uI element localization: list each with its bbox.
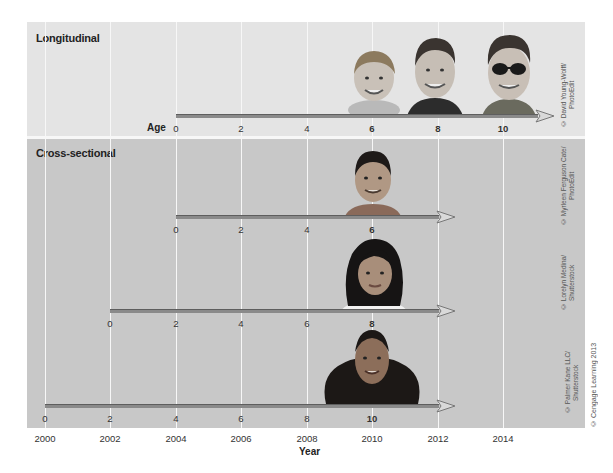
photo-girl-age-8: [338, 236, 410, 312]
photo-credit: © David Young-Wolff/ PhotoEdit: [560, 60, 576, 130]
age-tick: 6: [369, 123, 374, 134]
cross-row1-arrow: [176, 215, 439, 219]
age-tick: 10: [367, 413, 378, 424]
panel-divider: [27, 136, 585, 139]
year-tick: 2006: [230, 433, 251, 444]
photo-boy-age-10: [478, 33, 540, 116]
year-tick: 2002: [99, 433, 120, 444]
age-tick: 10: [498, 123, 509, 134]
age-tick: 4: [173, 413, 178, 424]
photo-girl-age-10: [320, 328, 424, 406]
age-tick: 0: [173, 224, 178, 235]
year-axis-title: Year: [299, 446, 320, 457]
photo-credit: © Myrleen Ferguson Cate/ PhotoEdit: [560, 145, 576, 227]
photo-boy-age-6: [345, 48, 403, 116]
year-tick: 2004: [165, 433, 186, 444]
arrowhead-icon: [436, 399, 456, 413]
photo-boy-age-8: [405, 36, 465, 116]
age-tick: 2: [107, 413, 112, 424]
age-tick: 2: [238, 123, 243, 134]
age-tick: 0: [107, 318, 112, 329]
age-axis-label: Age: [147, 122, 166, 133]
gridline-2002: [110, 22, 111, 428]
age-tick: 2: [238, 224, 243, 235]
age-tick: 4: [304, 123, 309, 134]
longitudinal-age-arrow: [176, 114, 538, 118]
age-tick: 6: [304, 318, 309, 329]
age-tick: 6: [238, 413, 243, 424]
arrowhead-icon: [436, 304, 456, 318]
age-tick: 8: [304, 413, 309, 424]
copyright: © Cengage Learning 2013: [590, 340, 598, 430]
cross-sectional-title: Cross-sectional: [36, 147, 116, 159]
year-tick: 2010: [361, 433, 382, 444]
photo-boy-age-6-cross: [345, 148, 401, 216]
photo-credit: © Lorelyn Medina/ Shutterstock: [560, 245, 576, 320]
age-tick: 6: [369, 224, 374, 235]
age-tick: 0: [173, 123, 178, 134]
age-tick: 4: [238, 318, 243, 329]
arrowhead-icon: [436, 210, 456, 224]
year-tick: 2008: [296, 433, 317, 444]
age-tick: 0: [42, 413, 47, 424]
cross-row2-arrow: [110, 309, 439, 313]
arrowhead-icon: [535, 109, 555, 123]
year-tick: 2000: [34, 433, 55, 444]
cross-row3-arrow: [45, 404, 439, 408]
gridline-2000: [45, 22, 46, 428]
photo-credit: © Palmer Kane LLC/ Shutterstock: [564, 345, 580, 420]
year-tick: 2014: [492, 433, 513, 444]
year-tick: 2012: [427, 433, 448, 444]
age-tick: 8: [435, 123, 440, 134]
age-tick: 2: [173, 318, 178, 329]
age-tick: 4: [304, 224, 309, 235]
